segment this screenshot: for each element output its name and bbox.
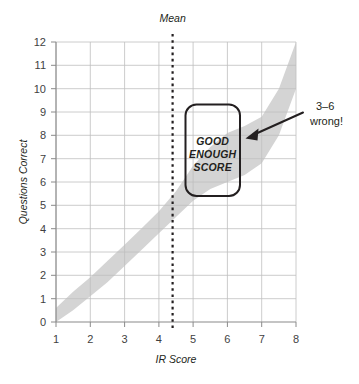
- x-tick-label-2: 2: [87, 333, 93, 345]
- good-enough-score-line-1: GOOD: [196, 135, 229, 147]
- x-tick-label-6: 6: [224, 333, 230, 345]
- y-tick-label-11: 11: [35, 59, 46, 71]
- x-tick-label-5: 5: [190, 333, 196, 345]
- y-tick-label-9: 9: [40, 106, 46, 118]
- y-tick-label-10: 10: [34, 83, 46, 95]
- good-enough-score-line-3: SCORE: [194, 161, 233, 173]
- x-tick-label-7: 7: [259, 333, 265, 345]
- y-tick-label-8: 8: [40, 129, 46, 141]
- callout-line-1: 3–6: [316, 100, 334, 112]
- x-tick-label-8: 8: [293, 333, 299, 345]
- x-tick-label-1: 1: [53, 333, 59, 345]
- y-tick-label-7: 7: [40, 153, 46, 165]
- y-tick-label-6: 6: [40, 176, 46, 188]
- y-tick-label-2: 2: [40, 269, 46, 281]
- mean-line-label: Mean: [159, 12, 185, 24]
- x-tick-label-4: 4: [156, 333, 162, 345]
- callout-line-2: wrong!: [309, 115, 343, 127]
- y-tick-label-12: 12: [34, 36, 46, 48]
- y-tick-label-0: 0: [40, 316, 46, 328]
- irscore-vs-questions-correct-chart: 12 11 10 9 8 7 6 5 4 3 2 1 0 1 2 3 4 5 6…: [0, 0, 359, 384]
- y-tick-label-5: 5: [40, 199, 46, 211]
- good-enough-score-line-2: ENOUGH: [189, 148, 237, 160]
- y-tick-label-4: 4: [40, 223, 46, 235]
- y-axis-title: Questions Correct: [17, 139, 29, 225]
- x-axis-title: IR Score: [156, 353, 197, 365]
- x-tick-label-3: 3: [122, 333, 128, 345]
- y-tick-label-1: 1: [40, 293, 46, 305]
- y-tick-label-3: 3: [40, 246, 46, 258]
- chart-root: 12 11 10 9 8 7 6 5 4 3 2 1 0 1 2 3 4 5 6…: [0, 0, 359, 384]
